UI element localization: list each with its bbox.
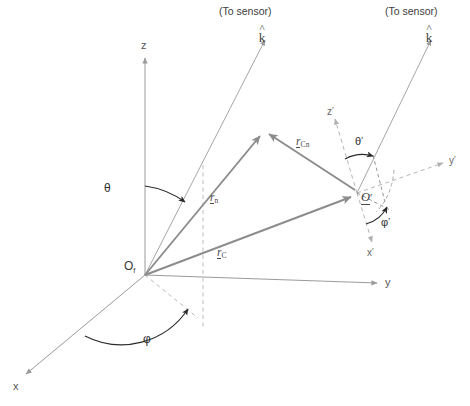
khat-left-letter: k bbox=[253, 31, 271, 44]
khat-left-ray bbox=[145, 40, 265, 275]
y-prime-mark: ′ bbox=[454, 154, 456, 164]
vector-rc-subscript: C bbox=[221, 251, 226, 260]
global-axes bbox=[26, 58, 377, 374]
scattering-geometry-diagram: (To sensor) ^ k (To sensor) ^ k z y x θ … bbox=[0, 0, 470, 406]
y-axis-label: y bbox=[385, 277, 391, 288]
global-dashed-helpers bbox=[145, 165, 203, 327]
origin-global-subscript: f bbox=[133, 266, 135, 275]
origin-global-base: O bbox=[124, 259, 133, 273]
khat-prime-projection-vertical bbox=[373, 155, 385, 202]
x-prime-mark: ′ bbox=[372, 246, 374, 256]
khat-right-letter: k bbox=[420, 31, 438, 44]
azimuth-projection-line bbox=[145, 275, 198, 318]
sensor-rays bbox=[145, 40, 431, 275]
theta-prime-angle-label: θ′ bbox=[355, 136, 363, 147]
z-prime-mark: ′ bbox=[332, 105, 334, 115]
x-axis bbox=[26, 275, 145, 374]
vector-rc bbox=[145, 197, 351, 275]
origin-local-base: O bbox=[361, 190, 370, 205]
origin-local-prime-mark: ′ bbox=[370, 191, 372, 203]
khat-label-left: ^ k bbox=[253, 25, 271, 44]
sensor-label-left: (To sensor) bbox=[219, 6, 272, 17]
vector-rn-label: rn bbox=[210, 192, 218, 205]
vector-rc-label: rC bbox=[217, 247, 227, 260]
phi-prime-angle-label: φ′ bbox=[381, 217, 390, 228]
y-prime-axis bbox=[357, 163, 443, 193]
y-prime-axis-label: y′ bbox=[449, 155, 456, 166]
phi-prime-mark: ′ bbox=[388, 216, 390, 226]
phi-angle-label: φ bbox=[143, 333, 151, 345]
theta-prime-arc bbox=[345, 155, 373, 159]
origin-local-label: O′ bbox=[361, 191, 372, 204]
vector-rcn-label: rCn bbox=[296, 136, 310, 149]
theta-arc bbox=[145, 186, 185, 202]
z-prime-axis-label: z′ bbox=[327, 106, 334, 117]
x-prime-axis-label: x′ bbox=[367, 247, 374, 258]
vector-rn-subscript: n bbox=[214, 196, 218, 205]
z-axis-label: z bbox=[141, 40, 147, 51]
x-axis-label: x bbox=[13, 381, 19, 392]
theta-angle-label: θ bbox=[104, 182, 111, 194]
khat-label-right: ^ k bbox=[420, 25, 438, 44]
phi-arc bbox=[85, 309, 188, 345]
vector-rcn-subscript: Cn bbox=[300, 140, 309, 149]
position-vectors bbox=[145, 134, 355, 275]
sensor-label-right: (To sensor) bbox=[385, 6, 438, 17]
origin-global-label: Of bbox=[124, 260, 135, 275]
theta-prime-mark: ′ bbox=[361, 135, 363, 145]
y-axis bbox=[145, 275, 377, 283]
diagram-canvas bbox=[0, 0, 470, 406]
